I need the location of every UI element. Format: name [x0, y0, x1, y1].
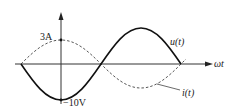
- waveform-diagram: [0, 0, 229, 111]
- y-axis-arrow-icon: [59, 12, 64, 20]
- voltage-curve-label: u(t): [170, 37, 184, 47]
- x-axis-label: ωt: [214, 59, 224, 69]
- current-curve-label: i(t): [182, 88, 194, 98]
- voltage-min-marker: [60, 99, 63, 102]
- current-label-leader: [157, 84, 180, 90]
- voltage-min-label: −10V: [63, 98, 86, 108]
- current-peak-label: 3A: [40, 32, 52, 42]
- current-peak-marker: [60, 39, 63, 42]
- x-axis-arrow-icon: [205, 62, 213, 67]
